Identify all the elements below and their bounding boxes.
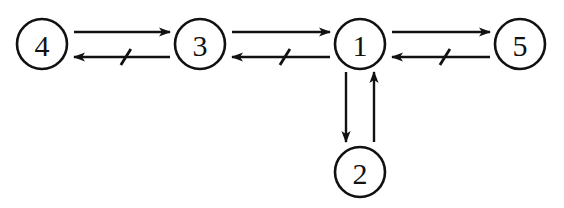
node-label-1: 1 <box>353 29 368 62</box>
node-label-2: 2 <box>353 157 368 190</box>
node-label-5: 5 <box>513 29 528 62</box>
edge-3-to-4 <box>74 49 170 65</box>
node-label-3: 3 <box>193 29 208 62</box>
node-2[interactable]: 2 <box>335 147 385 197</box>
node-1[interactable]: 1 <box>335 19 385 69</box>
node-5[interactable]: 5 <box>495 19 545 69</box>
edge-1-to-3 <box>232 49 330 65</box>
node-3[interactable]: 3 <box>175 19 225 69</box>
edge-5-to-1 <box>392 49 490 65</box>
node-4[interactable]: 4 <box>17 19 67 69</box>
node-label-4: 4 <box>35 29 50 62</box>
edges-layer <box>74 32 490 142</box>
node-diagram: 43152 <box>0 0 564 208</box>
diagram-canvas: 43152 <box>0 0 564 208</box>
nodes-layer: 43152 <box>17 19 545 197</box>
